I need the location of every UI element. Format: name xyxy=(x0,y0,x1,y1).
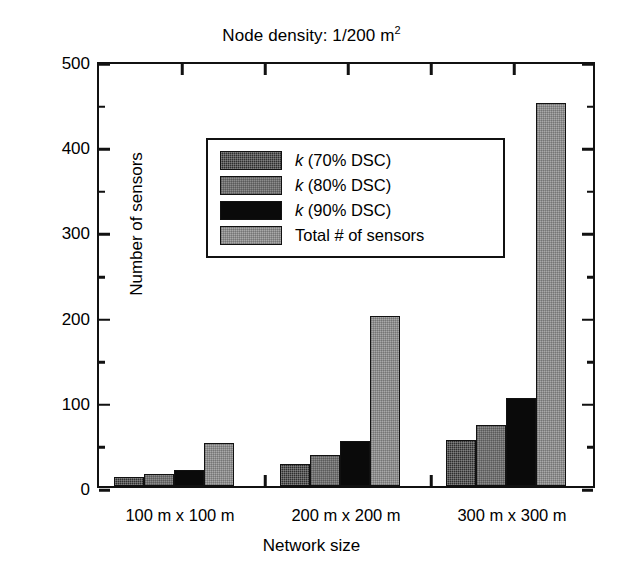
y-tick-mark-200 xyxy=(99,318,110,321)
x-top-minor-tick-1 xyxy=(347,64,350,75)
bar-k70-1 xyxy=(280,464,310,486)
y-tick-label-0: 0 xyxy=(36,480,99,500)
y-tick-label-100: 100 xyxy=(36,395,99,415)
x-tick-mark-1 xyxy=(264,475,267,486)
legend-swatch-k90 xyxy=(220,201,282,220)
x-tick-mark-2 xyxy=(430,64,433,75)
bar-k90-0 xyxy=(174,470,204,486)
legend-item-tot: Total # of sensors xyxy=(208,223,503,248)
x-top-minor-tick-0 xyxy=(181,64,184,75)
legend-swatch-k80 xyxy=(220,176,282,195)
y-tick-mark-500 xyxy=(99,63,110,66)
bar-tot-0 xyxy=(204,443,234,486)
bar-k80-2 xyxy=(476,425,506,486)
y-minor-tick-50 xyxy=(587,446,593,449)
bar-k90-2 xyxy=(506,398,536,486)
bar-tot-2 xyxy=(536,103,566,486)
bar-k70-2 xyxy=(446,440,476,486)
x-tick-label-2: 300 m x 300 m xyxy=(457,506,566,525)
x-tick-label-0: 100 m x 100 m xyxy=(125,506,234,525)
legend-label-k80: k (80% DSC) xyxy=(295,176,391,195)
bar-k70-0 xyxy=(114,477,144,486)
y-tick-mark-400 xyxy=(582,148,593,151)
y-tick-mark-100 xyxy=(582,404,593,407)
chart-title-superscript: 2 xyxy=(394,24,400,36)
x-tick-label-1: 200 m x 200 m xyxy=(291,506,400,525)
legend-label-tot: Total # of sensors xyxy=(295,226,424,245)
y-minor-tick-50 xyxy=(99,446,105,449)
legend-label-k90: k (90% DSC) xyxy=(295,201,391,220)
y-tick-mark-300 xyxy=(582,233,593,236)
y-minor-tick-350 xyxy=(587,191,593,194)
legend-label-k70: k (70% DSC) xyxy=(295,151,391,170)
legend-swatch-k70 xyxy=(220,151,282,170)
legend-swatch-tot xyxy=(220,226,282,245)
y-tick-label-200: 200 xyxy=(36,310,99,330)
x-tick-mark-2 xyxy=(430,475,433,486)
x-tick-mark-1 xyxy=(264,64,267,75)
y-tick-mark-100 xyxy=(99,404,110,407)
y-minor-tick-250 xyxy=(99,276,105,279)
legend-item-k90: k (90% DSC) xyxy=(208,198,503,223)
chart-title-text: Node density: 1/200 m xyxy=(222,26,394,45)
chart-legend: k (70% DSC)k (80% DSC)k (90% DSC)Total #… xyxy=(206,138,505,258)
x-axis-label: Network size xyxy=(0,536,623,556)
bar-k90-1 xyxy=(340,441,370,486)
y-tick-mark-200 xyxy=(582,318,593,321)
y-tick-mark-300 xyxy=(99,233,110,236)
y-tick-mark-500 xyxy=(582,63,593,66)
y-minor-tick-150 xyxy=(587,361,593,364)
bar-k80-0 xyxy=(144,474,174,486)
y-tick-mark-0 xyxy=(99,489,110,492)
legend-item-k80: k (80% DSC) xyxy=(208,173,503,198)
x-top-minor-tick-2 xyxy=(513,64,516,75)
y-tick-label-400: 400 xyxy=(36,139,99,159)
legend-item-k70: k (70% DSC) xyxy=(208,148,503,173)
chart-figure: Node density: 1/200 m2 Number of sensors… xyxy=(0,0,623,571)
y-tick-label-300: 300 xyxy=(36,224,99,244)
y-minor-tick-450 xyxy=(587,105,593,108)
y-tick-mark-400 xyxy=(99,148,110,151)
y-minor-tick-250 xyxy=(587,276,593,279)
bar-tot-1 xyxy=(370,316,400,486)
plot-area: Number of sensors 0100200300400500 k (70… xyxy=(97,62,595,488)
y-tick-mark-0 xyxy=(582,489,593,492)
chart-title: Node density: 1/200 m2 xyxy=(0,24,623,46)
y-minor-tick-450 xyxy=(99,105,105,108)
y-axis-label: Number of sensors xyxy=(127,124,147,324)
y-minor-tick-350 xyxy=(99,191,105,194)
y-tick-label-500: 500 xyxy=(36,54,99,74)
y-minor-tick-150 xyxy=(99,361,105,364)
bar-k80-1 xyxy=(310,455,340,486)
